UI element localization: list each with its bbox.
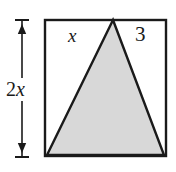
geometry-figure: x 3 2x [0, 0, 176, 172]
label-left-side-x: x [68, 26, 76, 45]
label-height-2x: 2x [5, 78, 27, 101]
shaded-triangle-fill [47, 20, 164, 155]
label-right-side-3: 3 [135, 24, 146, 45]
label-height-coefficient: 2 [6, 78, 16, 100]
dimension-arrowhead-up [18, 24, 26, 34]
label-height-variable: x [16, 78, 25, 100]
dimension-arrowhead-down [18, 143, 26, 153]
